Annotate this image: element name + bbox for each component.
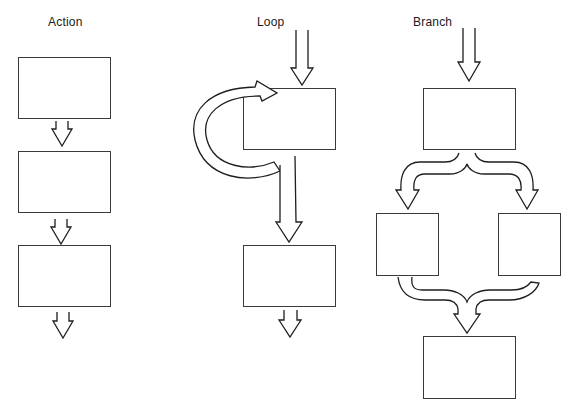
branch-box-decision — [424, 89, 516, 150]
action-box-1 — [19, 58, 111, 119]
loop-box-1 — [244, 89, 336, 150]
flow-diagram — [0, 0, 579, 410]
down-arrow-icon — [276, 156, 302, 242]
branch-box-right — [499, 214, 561, 276]
branch-box-end — [424, 337, 516, 399]
action-box-3 — [19, 246, 111, 307]
loop-box-2 — [244, 246, 336, 307]
loop-column — [194, 30, 336, 337]
exit-arrow-icon — [279, 310, 301, 337]
action-column — [19, 58, 111, 339]
entry-arrow-icon — [291, 30, 313, 85]
entry-arrow-icon — [458, 28, 480, 81]
branch-column — [377, 28, 561, 399]
exit-arrow-icon — [53, 312, 73, 338]
action-box-2 — [19, 152, 111, 213]
branch-box-left — [377, 214, 439, 276]
merge-arrow-icon — [398, 277, 539, 333]
down-arrow-icon — [52, 121, 72, 146]
fork-arrow-icon — [396, 153, 538, 209]
down-arrow-icon — [51, 219, 71, 244]
